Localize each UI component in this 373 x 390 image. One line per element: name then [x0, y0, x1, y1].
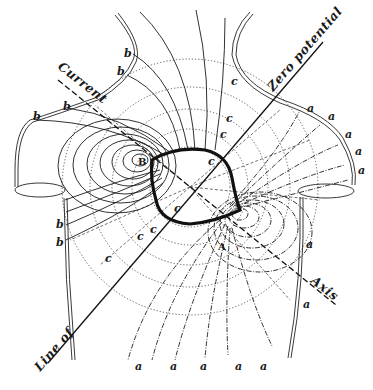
label-a: a [170, 360, 177, 373]
pole-b-label: B [138, 156, 146, 167]
label-a: a [307, 102, 314, 115]
label-a: a [260, 360, 267, 373]
label-a: a [328, 110, 335, 123]
field-lines-a [128, 110, 348, 360]
axis-label: Axis [307, 272, 341, 303]
label-a: a [235, 360, 242, 373]
label-b: b [56, 218, 64, 231]
label-b: b [117, 65, 125, 78]
label-c: c [226, 112, 233, 125]
label-c: c [137, 230, 144, 243]
label-b: b [33, 110, 41, 123]
label-a: a [200, 360, 207, 373]
label-a: a [358, 164, 365, 177]
label-c: c [174, 202, 181, 215]
label-c: c [150, 223, 157, 236]
label-a: a [355, 145, 362, 158]
label-c: c [105, 252, 112, 265]
pole-a-label: A [217, 241, 226, 252]
radial-lines [70, 105, 320, 300]
label-c: c [231, 75, 238, 88]
current-axis-line [58, 80, 336, 305]
label-a: a [135, 360, 142, 373]
label-a: a [303, 298, 310, 311]
label-b: b [63, 100, 71, 113]
label-a: a [345, 128, 352, 141]
label-b: b [124, 47, 132, 60]
label-b: b [56, 236, 64, 249]
label-c: c [208, 155, 215, 168]
label-a: a [306, 238, 313, 251]
label-c: c [220, 128, 227, 141]
heart-field-diagram: Current Axis Zero potential Line of B A … [0, 0, 373, 390]
zero-potential-label: Zero potential [263, 4, 345, 95]
